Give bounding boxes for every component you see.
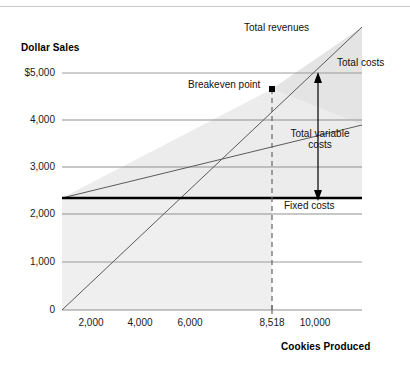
x-tick-label-6000: 6,000 [163, 317, 217, 328]
annotation-total-variable-costs: Total variable costs [278, 128, 362, 150]
annotation-total-variable-costs-line2: costs [278, 139, 362, 150]
breakeven-point-marker [269, 86, 275, 92]
chart-page: Dollar Sales Cookies Produced $5,000 4,0… [0, 0, 410, 371]
y-tick-label-1000: 1,000 [7, 256, 55, 267]
annotation-fixed-costs: Fixed costs [284, 200, 335, 211]
x-tick-label-4000: 4,000 [113, 317, 167, 328]
annotation-total-revenues: Total revenues [244, 22, 309, 33]
y-tick-label-4000: 4,000 [7, 114, 55, 125]
y-tick-label-2000: 2,000 [7, 208, 55, 219]
annotation-breakeven-point: Breakeven point [188, 79, 260, 90]
annotation-total-costs: Total costs [337, 57, 384, 68]
y-axis-title: Dollar Sales [21, 42, 79, 53]
y-tick-label-0: 0 [7, 304, 55, 315]
x-tick-label-10000: 10,000 [288, 317, 342, 328]
loss-area-shading [62, 198, 272, 310]
x-axis-title: Cookies Produced [281, 341, 370, 352]
y-tick-label-3000: 3,000 [7, 161, 55, 172]
x-tick-label-2000: 2,000 [64, 317, 118, 328]
y-tick-label-5000: $5,000 [7, 67, 55, 78]
annotation-total-variable-costs-line1: Total variable [278, 128, 362, 139]
breakeven-chart-canvas [0, 0, 410, 371]
